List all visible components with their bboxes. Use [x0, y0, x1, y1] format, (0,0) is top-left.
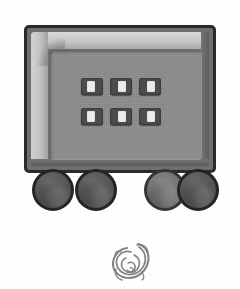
panel-button-2[interactable]	[110, 78, 132, 95]
doodle-core-curve	[127, 262, 135, 271]
wheel-shading	[35, 172, 71, 208]
bevel-shadow-right	[201, 32, 209, 165]
panel-button-5[interactable]	[110, 108, 132, 125]
slot-icon	[118, 81, 126, 92]
cart-body	[24, 25, 216, 173]
panel-button-3[interactable]	[139, 78, 161, 95]
wheel-front-left	[32, 169, 74, 211]
slot-icon	[87, 111, 95, 122]
slot-icon	[118, 111, 126, 122]
illustration-canvas	[0, 0, 240, 289]
bevel-shadow-bottom	[31, 159, 209, 166]
doodle-center-dot	[130, 268, 133, 271]
button-grid	[81, 78, 161, 134]
wheel-mid-left	[75, 169, 117, 211]
doodle-inner-curve	[122, 255, 140, 272]
wheel-front-right	[177, 169, 219, 211]
slot-icon	[147, 81, 155, 92]
panel-button-4[interactable]	[81, 108, 103, 125]
panel-button-6[interactable]	[139, 108, 161, 125]
slot-icon	[147, 111, 155, 122]
spiral-sketch	[108, 238, 154, 286]
wheel-shading	[78, 172, 114, 208]
panel-button-1[interactable]	[81, 78, 103, 95]
slot-icon	[87, 81, 95, 92]
wheel-shading	[180, 172, 216, 208]
